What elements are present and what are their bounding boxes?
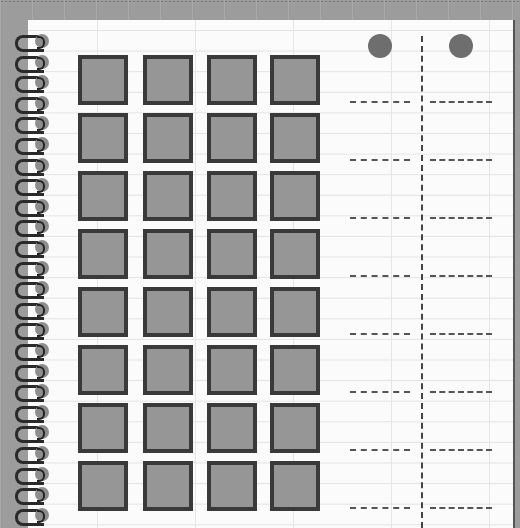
answer-slot-1[interactable] bbox=[350, 159, 410, 161]
spiral-ring-icon bbox=[13, 467, 51, 483]
answer-slot-2[interactable] bbox=[430, 159, 492, 161]
answer-slot-2[interactable] bbox=[430, 449, 492, 451]
spiral-ring-icon bbox=[13, 137, 51, 153]
spiral-ring-icon bbox=[13, 343, 51, 359]
grid-square[interactable] bbox=[207, 403, 257, 453]
grid-square[interactable] bbox=[143, 229, 193, 279]
grid-square[interactable] bbox=[207, 171, 257, 221]
spiral-ring-icon bbox=[13, 384, 51, 400]
grid-square[interactable] bbox=[207, 287, 257, 337]
answer-slot-1[interactable] bbox=[350, 275, 410, 277]
spiral-ring-icon bbox=[13, 158, 51, 174]
grid-square[interactable] bbox=[78, 55, 128, 105]
spiral-ring-icon bbox=[13, 240, 51, 256]
spiral-ring-icon bbox=[13, 261, 51, 277]
grid-square[interactable] bbox=[270, 113, 320, 163]
grid-square[interactable] bbox=[143, 113, 193, 163]
grid-square[interactable] bbox=[78, 345, 128, 395]
spiral-ring-icon bbox=[13, 405, 51, 421]
column-marker-1 bbox=[368, 34, 392, 58]
spiral-ring-icon bbox=[13, 425, 51, 441]
grid-square[interactable] bbox=[270, 171, 320, 221]
grid-square[interactable] bbox=[270, 229, 320, 279]
grid-square[interactable] bbox=[270, 345, 320, 395]
grid-square[interactable] bbox=[207, 113, 257, 163]
grid-square[interactable] bbox=[143, 461, 193, 511]
spiral-ring-icon bbox=[13, 281, 51, 297]
spiral-ring-icon bbox=[13, 96, 51, 112]
grid-square[interactable] bbox=[270, 461, 320, 511]
grid-square[interactable] bbox=[270, 403, 320, 453]
grid-square[interactable] bbox=[143, 171, 193, 221]
spiral-ring-icon bbox=[13, 75, 51, 91]
answer-slot-2[interactable] bbox=[430, 333, 492, 335]
answer-slot-1[interactable] bbox=[350, 217, 410, 219]
spiral-ring-icon bbox=[13, 178, 51, 194]
spiral-ring-icon bbox=[13, 508, 51, 524]
grid-square[interactable] bbox=[78, 229, 128, 279]
grid-square[interactable] bbox=[78, 287, 128, 337]
spiral-ring-icon bbox=[13, 302, 51, 318]
spiral-ring-icon bbox=[13, 487, 51, 503]
answer-slot-2[interactable] bbox=[430, 275, 492, 277]
top-border bbox=[0, 0, 520, 3]
grid-square[interactable] bbox=[143, 345, 193, 395]
answer-slot-1[interactable] bbox=[350, 101, 410, 103]
spiral-ring-icon bbox=[13, 219, 51, 235]
answer-slot-1[interactable] bbox=[350, 449, 410, 451]
grid-square[interactable] bbox=[78, 113, 128, 163]
grid-square[interactable] bbox=[78, 461, 128, 511]
answer-slot-1[interactable] bbox=[350, 507, 410, 509]
column-divider bbox=[421, 36, 423, 528]
spiral-ring-icon bbox=[13, 446, 51, 462]
grid-square[interactable] bbox=[207, 55, 257, 105]
answer-slot-2[interactable] bbox=[430, 101, 492, 103]
spiral-ring-icon bbox=[13, 116, 51, 132]
grid-square[interactable] bbox=[270, 55, 320, 105]
grid-square[interactable] bbox=[207, 345, 257, 395]
spiral-ring-icon bbox=[13, 199, 51, 215]
grid-square[interactable] bbox=[78, 403, 128, 453]
answer-slot-1[interactable] bbox=[350, 391, 410, 393]
grid-square[interactable] bbox=[207, 461, 257, 511]
spiral-ring-icon bbox=[13, 55, 51, 71]
grid-square[interactable] bbox=[78, 171, 128, 221]
spiral-ring-icon bbox=[13, 34, 51, 50]
answer-slot-2[interactable] bbox=[430, 507, 492, 509]
grid-square[interactable] bbox=[143, 403, 193, 453]
spiral-ring-icon bbox=[13, 322, 51, 338]
answer-slot-2[interactable] bbox=[430, 217, 492, 219]
grid-square[interactable] bbox=[143, 287, 193, 337]
column-marker-2 bbox=[449, 34, 473, 58]
grid-square[interactable] bbox=[270, 287, 320, 337]
grid-square[interactable] bbox=[143, 55, 193, 105]
spiral-ring-icon bbox=[13, 364, 51, 380]
answer-slot-2[interactable] bbox=[430, 391, 492, 393]
grid-square[interactable] bbox=[207, 229, 257, 279]
answer-slot-1[interactable] bbox=[350, 333, 410, 335]
